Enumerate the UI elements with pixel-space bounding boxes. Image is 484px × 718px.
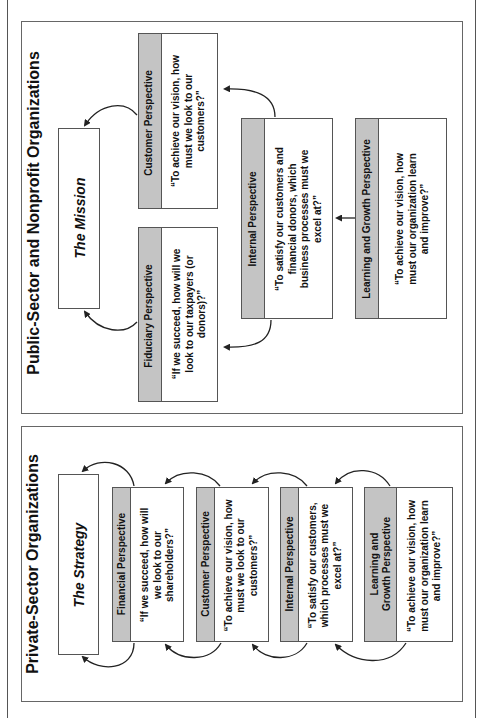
public-fiduciary-perspective: Fiduciary Perspective “If we succeed, ho… xyxy=(138,227,218,402)
public-learning-perspective: Learning and Growth Perspective “To achi… xyxy=(355,118,447,319)
perspective-header: Internal Perspective xyxy=(242,119,265,318)
page-left-rule xyxy=(7,0,8,718)
perspective-body: “If we succeed, how will we look to our … xyxy=(130,488,183,641)
private-internal-perspective: Internal Perspective “To satisfy our cus… xyxy=(280,487,353,642)
perspective-header: Customer Perspective xyxy=(197,488,215,641)
perspective-header: Learning and Growth Perspective xyxy=(356,119,379,318)
perspective-body: “To satisfy our customers and financial … xyxy=(264,119,332,318)
private-customer-perspective: Customer Perspective “To achieve our vis… xyxy=(196,487,269,642)
page-right-rule xyxy=(475,0,476,718)
perspective-header-label: Learning and Growth Perspective xyxy=(365,487,397,642)
perspective-body: “To satisfy our customers, which process… xyxy=(298,488,352,641)
perspective-question: “To achieve our vision, how must we look… xyxy=(214,488,269,643)
perspective-question: “If we succeed, how will we look to our … xyxy=(160,227,220,402)
perspective-question: “To satisfy our customers, which process… xyxy=(298,488,353,643)
perspective-header-label: Internal Perspective xyxy=(243,119,263,320)
perspective-header: Financial Perspective xyxy=(113,488,131,641)
private-learning-perspective: Learning and Growth Perspective “To achi… xyxy=(364,487,453,642)
perspective-header-label: Learning and Growth Perspective xyxy=(357,119,377,320)
public-customer-perspective: Customer Perspective “To achieve our vis… xyxy=(138,33,218,209)
perspective-body: “To achieve our vision, how must we look… xyxy=(161,34,217,208)
perspective-question: “To achieve our vision, how must our org… xyxy=(397,489,453,644)
strategy-label: The Strategy xyxy=(59,475,99,655)
perspective-question: “If we succeed, how will we look to our … xyxy=(131,488,185,643)
perspective-question: “To satisfy our customers and financial … xyxy=(265,119,333,320)
perspective-question: “To achieve our vision, how must we look… xyxy=(159,33,219,209)
perspective-body: “To achieve our vision, how must our org… xyxy=(378,119,446,318)
public-sector-title: Public-Sector and Nonprofit Organization… xyxy=(22,67,46,359)
perspective-header-label: Customer Perspective xyxy=(139,35,159,211)
private-sector-title: Private-Sector Organizations xyxy=(21,464,45,664)
strategy-box: The Strategy xyxy=(58,474,99,655)
public-internal-perspective: Internal Perspective “To satisfy our cus… xyxy=(241,118,333,319)
perspective-body: “If we succeed, how will we look to our … xyxy=(161,228,217,401)
perspective-question: “To achieve our vision, how must our org… xyxy=(379,119,447,320)
perspective-header-label: Customer Perspective xyxy=(197,487,215,642)
perspective-header-label: Fiduciary Perspective xyxy=(139,229,159,404)
mission-label: The Mission xyxy=(60,128,100,308)
private-financial-perspective: Financial Perspective “If we succeed, ho… xyxy=(112,487,184,642)
perspective-header: Learning and Growth Perspective xyxy=(365,488,397,641)
perspective-header: Internal Perspective xyxy=(281,488,299,641)
perspective-header-label: Financial Perspective xyxy=(113,487,131,642)
perspective-body: “To achieve our vision, how must our org… xyxy=(396,488,452,641)
perspective-body: “To achieve our vision, how must we look… xyxy=(214,488,268,641)
mission-box: The Mission xyxy=(58,128,100,309)
perspective-header-label: Internal Perspective xyxy=(281,487,299,642)
